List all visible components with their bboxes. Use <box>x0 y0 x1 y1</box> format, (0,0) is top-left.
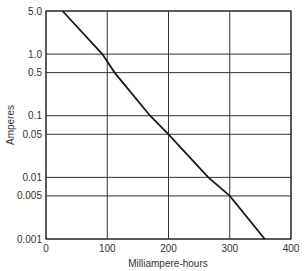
y-tick-label: 0.005 <box>17 190 42 201</box>
y-axis-ticks: 5.01.00.50.10.050.010.0050.001 <box>17 6 42 245</box>
x-axis-label: Milliampere-hours <box>128 258 207 269</box>
x-axis-ticks: 0100200300400 <box>43 243 300 254</box>
y-tick-label: 0.001 <box>17 234 42 245</box>
y-tick-label: 0.01 <box>23 172 43 183</box>
data-series <box>63 11 265 239</box>
y-tick-label: 5.0 <box>28 6 42 17</box>
chart: 5.01.00.50.10.050.010.0050.001 010020030… <box>0 0 305 271</box>
grid-lines <box>46 11 291 239</box>
x-tick-label: 100 <box>99 243 116 254</box>
y-tick-label: 0.1 <box>28 110 42 121</box>
y-tick-label: 1.0 <box>28 49 42 60</box>
x-tick-label: 300 <box>221 243 238 254</box>
y-tick-label: 0.05 <box>23 129 43 140</box>
y-axis-label: Amperes <box>5 105 16 145</box>
x-tick-label: 0 <box>43 243 49 254</box>
x-tick-label: 200 <box>160 243 177 254</box>
y-tick-label: 0.5 <box>28 67 42 78</box>
series-line <box>63 11 265 239</box>
x-tick-label: 400 <box>283 243 300 254</box>
